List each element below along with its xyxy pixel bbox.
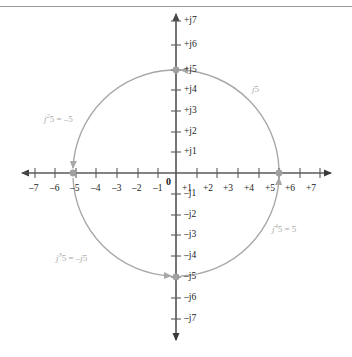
tick-label-real-plus-7: +7 xyxy=(306,183,316,193)
annotation-j4-5: j45 = 5 xyxy=(272,222,296,234)
tick-label-imag-minus-j5: –j5 xyxy=(184,271,196,281)
point-marker-minus-j-five xyxy=(173,274,180,281)
tick-label-imag-minus-j4: –j4 xyxy=(184,250,196,260)
tick-label-real-plus-4: +4 xyxy=(244,183,254,193)
annotation-j5: j5 xyxy=(252,84,259,94)
tick-label-imag-plus-j3: +j3 xyxy=(184,105,197,115)
tick-label-imag-plus-j4: +j4 xyxy=(184,84,197,94)
tick-label-real-minus-1: –1 xyxy=(153,183,163,193)
tick-label-real-plus-5: +5 xyxy=(265,183,275,193)
tick-label-imag-plus-j1: +j1 xyxy=(184,146,197,156)
tick-label-real-plus-2: +2 xyxy=(203,183,213,193)
tick-label-imag-plus-j6: +j6 xyxy=(184,39,197,49)
annotation-j2-5: j25 = –5 xyxy=(44,112,73,124)
tick-label-real-minus-7: –7 xyxy=(29,183,39,193)
point-marker-minus-five xyxy=(70,170,77,177)
annotation-j3-5: j35 = –j5 xyxy=(56,251,87,263)
tick-label-imag-minus-j7: –j7 xyxy=(184,313,196,323)
point-marker-plus-five xyxy=(276,170,283,177)
tick-label-real-plus-3: +3 xyxy=(223,183,233,193)
tick-label-real-minus-6: –6 xyxy=(50,183,60,193)
tick-label-imag-plus-j2: +j2 xyxy=(184,126,197,136)
complex-plane-plot xyxy=(0,0,352,357)
tick-label-real-minus-4: –4 xyxy=(91,183,101,193)
tick-label-imag-minus-j3: –j3 xyxy=(184,229,196,239)
tick-label-real-minus-3: –3 xyxy=(112,183,122,193)
tick-label-imag-minus-j1: –j1 xyxy=(184,188,196,198)
tick-label-imag-plus-j7: +j7 xyxy=(184,15,197,25)
point-marker-plus-j-five xyxy=(173,67,180,74)
arc-j2-5 xyxy=(73,70,172,168)
tick-label-real-plus-6: +6 xyxy=(285,183,295,193)
tick-label-imag-minus-j6: –j6 xyxy=(184,292,196,302)
tick-label-real-minus-2: –2 xyxy=(132,183,142,193)
origin-label: 0 xyxy=(166,176,171,187)
tick-label-imag-minus-j2: –j2 xyxy=(184,209,196,219)
tick-label-real-minus-5: –5 xyxy=(70,183,80,193)
complex-plane-figure: 0 –7 –6 –5 –4 –3 –2 –1 +1 +2 +3 +4 +5 +6… xyxy=(0,0,352,357)
tick-label-imag-plus-j5: +j5 xyxy=(184,64,197,74)
